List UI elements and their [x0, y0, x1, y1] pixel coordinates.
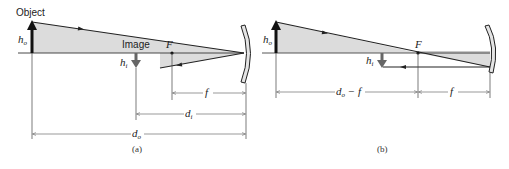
panel-a: Object ho Image hi F f di do (a) — [16, 7, 251, 154]
focal-label-b: F — [414, 38, 422, 50]
diagram-root: Object ho Image hi F f di do (a) — [0, 0, 509, 169]
object-label: Object — [16, 7, 45, 18]
image-arrowhead-a — [131, 60, 141, 68]
focal-label-a: F — [165, 38, 173, 50]
caption-a: (a) — [132, 144, 142, 154]
ho-label-a: ho — [18, 33, 28, 47]
do-minus-f-label-b: do − f — [336, 85, 363, 99]
caption-b: (b) — [377, 144, 388, 154]
concave-mirror-a — [241, 25, 251, 83]
ho-label-b: ho — [263, 33, 273, 47]
axis-band-b — [418, 51, 490, 54]
panel-b: ho hi F do − f f (b) — [262, 20, 496, 154]
reflected-ray-arrow-b — [400, 65, 406, 69]
hi-label-b: hi — [366, 54, 374, 68]
hi-label-a: hi — [120, 56, 128, 70]
image-label: Image — [122, 39, 150, 50]
